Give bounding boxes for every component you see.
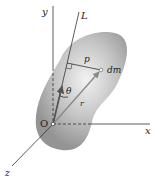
diagram-canvas: y L p dm θ r O x z <box>0 0 164 179</box>
label-x: x <box>145 125 151 136</box>
label-y: y <box>41 6 48 17</box>
origin-dot <box>51 122 55 126</box>
label-p: p <box>84 54 90 64</box>
label-origin: O <box>40 118 48 129</box>
mass-element-dot <box>99 68 103 72</box>
z-axis <box>12 124 53 166</box>
label-z: z <box>4 168 10 178</box>
label-dm: dm <box>107 65 121 75</box>
label-L: L <box>80 10 88 21</box>
label-theta: θ <box>66 86 72 96</box>
